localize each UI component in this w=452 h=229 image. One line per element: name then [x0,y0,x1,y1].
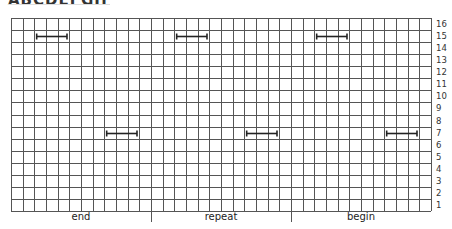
row-number: 15 [436,31,447,41]
row-number: 2 [436,188,441,198]
row-number: 5 [436,152,441,162]
row-number: 3 [436,176,441,186]
section-label-begin: begin [347,211,375,222]
row-number: 9 [436,103,441,113]
row-number: 12 [436,67,447,77]
row-number: 14 [436,43,447,53]
row-number: 6 [436,140,441,150]
section-labels: endrepeatbegin [72,211,375,222]
row-number-labels: 16151413121110987654321 [436,19,447,210]
row-number: 1 [436,200,441,210]
section-label-end: end [72,211,91,222]
stitch-bar-icon [387,131,417,137]
section-label-repeat: repeat [205,211,238,222]
row-number: 16 [436,19,447,29]
row-number: 8 [436,116,441,126]
row-number: 11 [436,79,447,89]
row-number: 7 [436,128,441,138]
row-number: 10 [436,91,447,101]
stitch-bar-icon [317,34,347,40]
stitch-bar-icon [37,34,67,40]
row-number: 4 [436,164,441,174]
stitch-bar-icon [247,131,277,137]
stitch-chart-grid: 16151413121110987654321 endrepeatbegin [0,0,452,229]
row-number: 13 [436,55,447,65]
stitch-bar-icon [107,131,137,137]
stitch-bar-icon [177,34,207,40]
grid-lines [11,18,432,212]
